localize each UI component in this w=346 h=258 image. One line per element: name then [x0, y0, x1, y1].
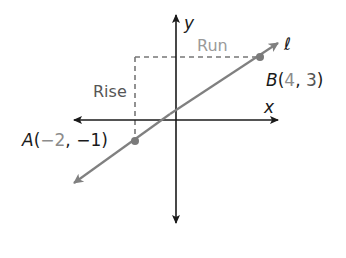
point-a-y: −1: [76, 130, 101, 150]
axes: [74, 15, 278, 223]
point-b-name: B: [266, 70, 278, 90]
coordinate-diagram: y x ℓ Run Rise A(−2, −1) B(4, 3): [0, 0, 346, 258]
rise-label: Rise: [93, 82, 127, 101]
x-axis-label: x: [263, 97, 275, 117]
y-axis-label: y: [183, 13, 195, 33]
point-a-sep: ,: [65, 130, 76, 150]
point-a-open: (: [34, 130, 41, 150]
point-a-name: A: [21, 130, 34, 150]
rise-run-guides: [135, 57, 259, 140]
point-b-y: 3: [306, 70, 317, 90]
run-label: Run: [197, 36, 228, 55]
point-a-label: A(−2, −1): [21, 130, 108, 150]
point-a-dot: [131, 137, 139, 145]
point-b-open: (: [278, 70, 285, 90]
point-b-sep: ,: [295, 70, 306, 90]
point-b-close: ): [317, 70, 324, 90]
line-l-label: ℓ: [283, 34, 291, 54]
point-b-x: 4: [284, 70, 295, 90]
point-a-close: ): [101, 130, 108, 150]
point-b-label: B(4, 3): [266, 70, 323, 90]
point-a-x: −2: [40, 130, 65, 150]
point-b-dot: [256, 53, 264, 61]
